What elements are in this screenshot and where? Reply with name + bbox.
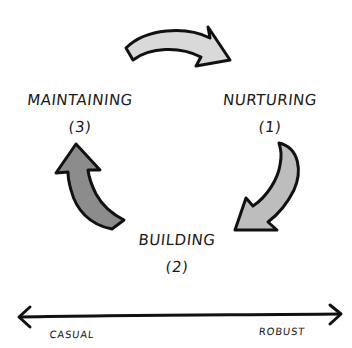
stage-label-building: BUILDING [121,231,233,249]
scale-label-casual: CASUAL [41,329,102,340]
stage-label-maintaining: MAINTAINING [19,91,141,109]
stage-order-maintaining: (3) [49,118,111,136]
arrow-nurturing-to-building [235,143,298,230]
arrow-building-to-maintaining [56,144,124,229]
stage-order-building: (2) [146,258,208,276]
cycle-diagram: MAINTAINING (3) NURTURING (1) BUILDING (… [0,0,352,348]
stage-order-nurturing: (1) [239,118,301,136]
stage-label-nurturing: NURTURING [209,91,331,109]
arrow-maintaining-to-nurturing [126,27,230,66]
scale-label-robust: ROBUST [251,326,312,337]
diagram-canvas [0,0,352,348]
scale-line [20,314,340,317]
